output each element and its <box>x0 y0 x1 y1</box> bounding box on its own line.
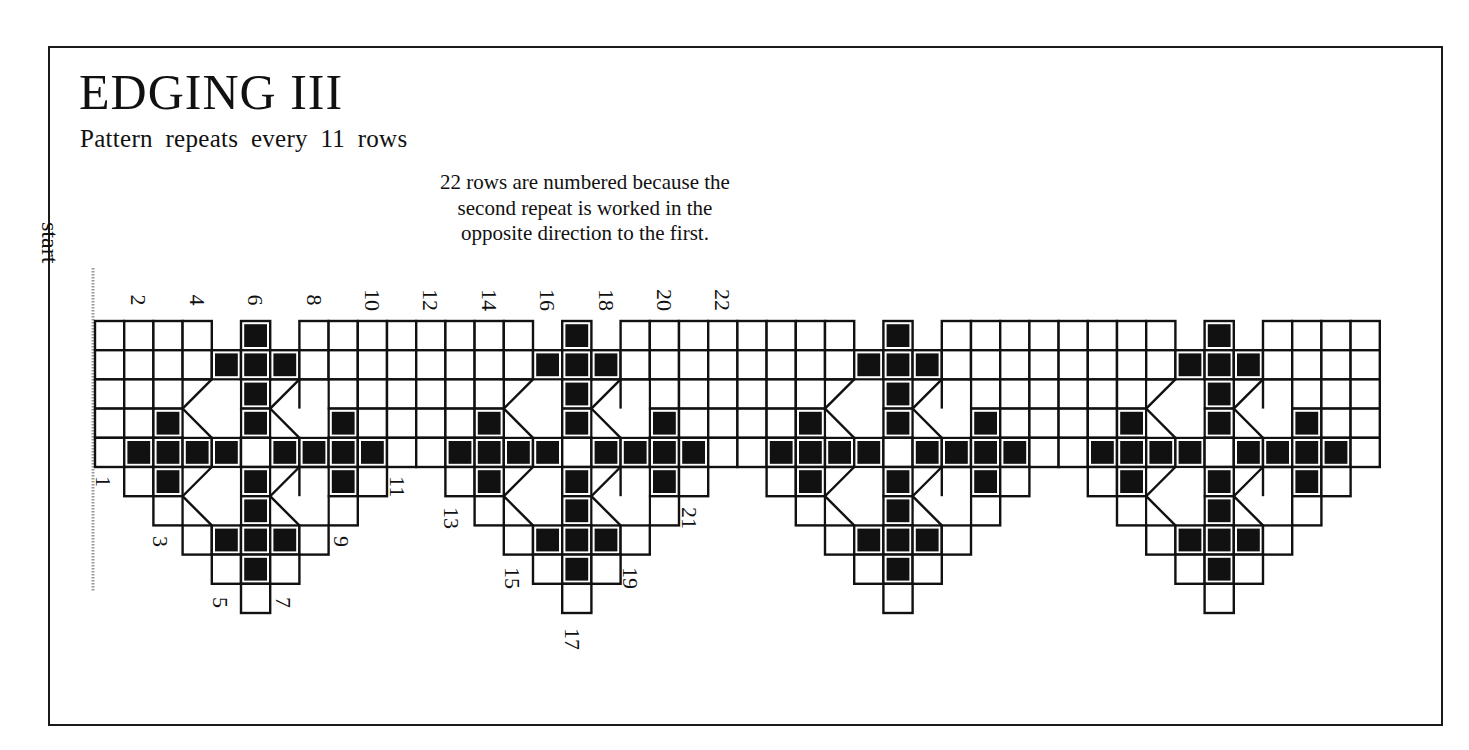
row-number-label: 6 <box>243 295 268 306</box>
block-stitch <box>857 529 880 552</box>
grid-cell-space <box>621 525 650 554</box>
grid-cell-space <box>1059 321 1088 350</box>
row-number-label: 17 <box>560 628 585 650</box>
grid-cell-space <box>971 350 1000 379</box>
row-number-label: 2 <box>126 295 151 306</box>
grid-cell-space <box>475 379 504 408</box>
block-stitch <box>1237 441 1260 464</box>
block-stitch <box>565 470 588 493</box>
grid-cell-space <box>796 350 825 379</box>
grid-cell-space <box>504 525 533 554</box>
block-stitch <box>799 470 822 493</box>
grid-cell-space <box>183 321 212 350</box>
grid-cell-space <box>1146 350 1175 379</box>
block-stitch <box>653 470 676 493</box>
grid-cell-space <box>416 350 445 379</box>
grid-cell-space <box>475 321 504 350</box>
grid-cell-space <box>1000 350 1029 379</box>
grid-cell-space <box>329 350 358 379</box>
row-number-label: 9 <box>329 536 354 547</box>
block-stitch <box>887 353 910 376</box>
grid-cell-space <box>1059 409 1088 438</box>
block-stitch <box>507 441 530 464</box>
grid-cell-space <box>1321 321 1350 350</box>
block-stitch <box>244 324 267 347</box>
grid-cell-space <box>883 584 912 613</box>
grid-cell-space <box>1000 467 1029 496</box>
grid-cell-space <box>971 496 1000 525</box>
block-stitch <box>653 412 676 435</box>
block-stitch <box>215 529 238 552</box>
block-stitch <box>1237 529 1260 552</box>
block-stitch <box>916 353 939 376</box>
block-stitch <box>565 529 588 552</box>
grid-cell-space <box>1088 379 1117 408</box>
grid-cell-space <box>562 438 591 467</box>
grid-cell-space <box>1029 438 1058 467</box>
grid-cell-space <box>737 350 766 379</box>
block-stitch <box>478 441 501 464</box>
grid-cell-space <box>416 409 445 438</box>
block-stitch <box>595 529 618 552</box>
grid-cell-space <box>387 438 416 467</box>
grid-cell-space <box>1088 409 1117 438</box>
grid-cell-space <box>562 584 591 613</box>
block-stitch <box>536 353 559 376</box>
block-stitch <box>215 353 238 376</box>
block-stitch <box>887 412 910 435</box>
block-stitch <box>887 383 910 406</box>
block-stitch <box>565 499 588 522</box>
block-stitch <box>1325 441 1348 464</box>
block-stitch <box>1208 558 1231 581</box>
lacet-area <box>505 468 561 524</box>
block-stitch <box>1208 499 1231 522</box>
block-stitch <box>244 470 267 493</box>
row-number-label: 18 <box>594 289 619 311</box>
grid-cell-space <box>1088 321 1117 350</box>
row-labels-top: 246810121416182022 <box>126 289 735 311</box>
block-stitch <box>536 529 559 552</box>
grid-cell-space <box>416 438 445 467</box>
grid-cell-space <box>1146 525 1175 554</box>
grid-cell-space <box>1205 584 1234 613</box>
block-stitch <box>1208 529 1231 552</box>
grid-cell-space <box>737 379 766 408</box>
grid-cell-space <box>708 379 737 408</box>
lacet-area <box>826 468 882 524</box>
grid-cell-space <box>1321 379 1350 408</box>
grid-cell-space <box>1117 379 1146 408</box>
grid-cell-space <box>1351 379 1380 408</box>
grid-cell-space <box>1351 409 1380 438</box>
block-stitch <box>1208 324 1231 347</box>
grid-cell-space <box>737 321 766 350</box>
row-number-label: 7 <box>271 597 296 608</box>
lacet-area <box>1148 468 1204 524</box>
grid-cell-space <box>124 467 153 496</box>
grid-cell-space <box>971 379 1000 408</box>
grid-cell-space <box>650 321 679 350</box>
block-stitch <box>332 441 355 464</box>
grid-cell-space <box>1029 409 1058 438</box>
block-stitch <box>828 441 851 464</box>
grid-cell-space <box>1351 321 1380 350</box>
block-stitch <box>1179 441 1202 464</box>
grid-cell-space <box>767 409 796 438</box>
grid-cell-space <box>504 350 533 379</box>
grid-cell-space <box>796 496 825 525</box>
block-stitch <box>478 412 501 435</box>
grid-cell-space <box>971 321 1000 350</box>
block-stitch <box>1179 353 1202 376</box>
block-stitch <box>244 499 267 522</box>
grid-cell-space <box>329 321 358 350</box>
grid-cell-space <box>737 409 766 438</box>
block-stitch <box>1295 412 1318 435</box>
grid-cell-space <box>153 321 182 350</box>
block-stitch <box>1091 441 1114 464</box>
grid-cell-space <box>358 409 387 438</box>
lacet-area <box>184 468 240 524</box>
grid-cell-space <box>358 321 387 350</box>
grid-cell-space <box>1263 525 1292 554</box>
grid-cell-space <box>153 350 182 379</box>
row-number-label: 19 <box>618 567 643 589</box>
block-stitch <box>565 558 588 581</box>
